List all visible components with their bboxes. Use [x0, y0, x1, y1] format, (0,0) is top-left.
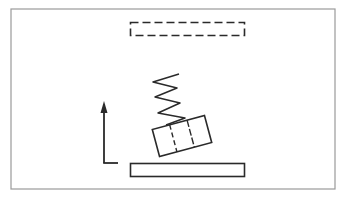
- platform: [131, 164, 245, 177]
- block-body: [152, 115, 211, 156]
- tilted-block: [152, 115, 211, 156]
- upward-arrow: [101, 101, 119, 163]
- spring: [153, 74, 185, 125]
- diagram-canvas: [0, 0, 350, 197]
- arrow-head-icon: [101, 101, 108, 113]
- dashed-target-outline: [131, 23, 245, 36]
